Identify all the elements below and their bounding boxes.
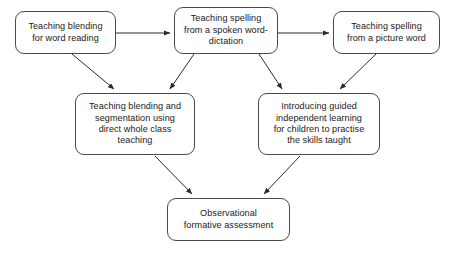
node-blending-segmentation[interactable]: Teaching blending and segmentation using… bbox=[75, 93, 195, 155]
connector-blending-word-reading-to-blending-segmentation bbox=[72, 54, 114, 89]
connector-spelling-dictation-to-blending-segmentation bbox=[170, 54, 194, 89]
node-guided-learning[interactable]: Introducing guided independent learning … bbox=[258, 93, 380, 155]
connector-spelling-picture-to-guided-learning bbox=[340, 54, 376, 89]
node-spelling-picture[interactable]: Teaching spelling from a picture word bbox=[333, 11, 440, 54]
flow-diagram: Teaching blending for word reading Teach… bbox=[0, 0, 449, 255]
node-observational[interactable]: Observational formative assessment bbox=[167, 198, 290, 241]
connector-guided-learning-to-observational bbox=[264, 156, 300, 194]
node-label: Observational formative assessment bbox=[184, 208, 273, 231]
connector-blending-segmentation-to-observational bbox=[155, 156, 192, 194]
node-label: Teaching spelling from a spoken word- di… bbox=[184, 13, 268, 47]
node-label: Introducing guided independent learning … bbox=[274, 101, 365, 147]
node-label: Teaching spelling from a picture word bbox=[347, 21, 426, 44]
node-label: Teaching blending for word reading bbox=[28, 21, 102, 44]
node-blending-word-reading[interactable]: Teaching blending for word reading bbox=[15, 11, 116, 54]
node-spelling-dictation[interactable]: Teaching spelling from a spoken word- di… bbox=[174, 7, 278, 54]
connector-spelling-dictation-to-guided-learning bbox=[259, 54, 282, 89]
node-label: Teaching blending and segmentation using… bbox=[89, 101, 181, 147]
